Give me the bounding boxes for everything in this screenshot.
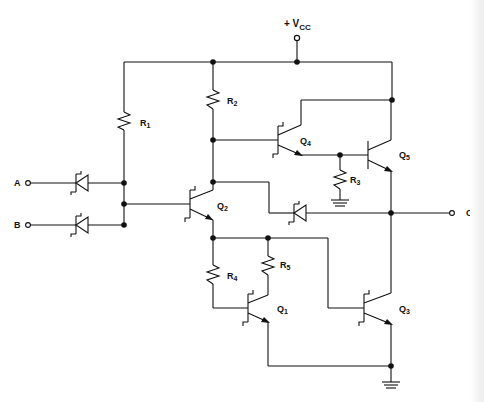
svg-text:Q5: Q5 <box>399 150 410 161</box>
vcc-terminal: + VCC <box>284 18 311 62</box>
svg-text:R2: R2 <box>227 96 238 107</box>
svg-text:B: B <box>14 220 21 230</box>
vcc-label: + V <box>284 18 300 29</box>
transistor-q3: Q3 <box>359 213 410 366</box>
resistor-r4: R4 <box>207 238 248 308</box>
svg-text:Q2: Q2 <box>217 201 228 212</box>
svg-text:R3: R3 <box>350 175 361 186</box>
input-a: A <box>14 171 127 195</box>
svg-text:+ VCC: + VCC <box>284 18 311 32</box>
vcc-subscript: CC <box>299 23 311 32</box>
resistor-r2: R2 <box>207 62 238 182</box>
resistor-r5: R5 <box>262 238 291 295</box>
top-rail <box>124 59 392 100</box>
svg-text:R4: R4 <box>227 271 238 282</box>
transistor-q2: Q2 <box>185 179 228 241</box>
svg-text:Q4: Q4 <box>300 136 311 147</box>
svg-text:R1: R1 <box>140 118 151 129</box>
scan-edge <box>470 0 484 402</box>
input-b: B <box>14 213 127 237</box>
output-c: C <box>388 208 473 218</box>
svg-text:R5: R5 <box>280 260 291 271</box>
svg-text:A: A <box>14 178 21 188</box>
clamp-diode <box>213 182 391 225</box>
ground-icon <box>331 200 349 206</box>
svg-text:Q1: Q1 <box>277 304 288 315</box>
svg-text:Q3: Q3 <box>399 304 410 315</box>
resistor-r3: R3 <box>331 155 361 206</box>
transistor-q5: Q5 <box>368 100 410 213</box>
ground-icon <box>382 363 400 388</box>
resistor-r1: R1 <box>118 62 151 225</box>
circuit-diagram: + VCC R1 R2 A B <box>0 0 484 402</box>
